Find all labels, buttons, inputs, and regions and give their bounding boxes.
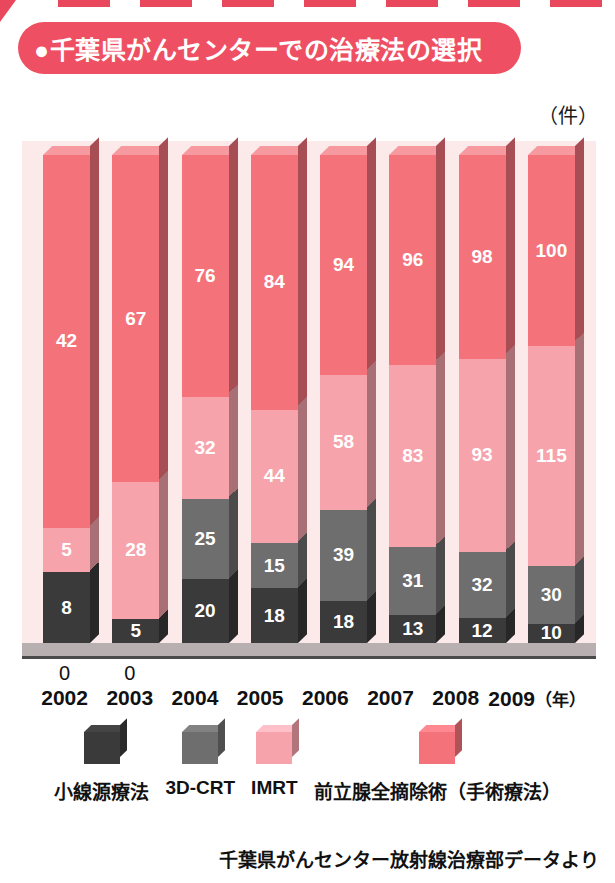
x-axis-labels: 0200202003020040200502006020070200802009…: [22, 661, 596, 721]
stacked-bar[interactable]: 84441518: [251, 155, 298, 643]
bleed-dash: [550, 0, 602, 7]
bar-segment-IMRT: 32: [182, 397, 229, 499]
bar-slot: 1001153010: [517, 141, 586, 657]
bar-segment-3D-CRT: 31: [389, 547, 436, 615]
bar-side-face: [436, 137, 445, 643]
corner-mark: [0, 0, 16, 22]
legend-color-swatch: [256, 732, 292, 764]
bar-segment-IMRT: 83: [389, 365, 436, 547]
bar-segment-IMRT: 93: [459, 359, 506, 552]
bar-segment-小線源療法: 10: [528, 624, 575, 643]
legend-color-swatch: [419, 732, 455, 764]
legend-label: 3D-CRT: [165, 777, 235, 799]
swatch-face: [419, 732, 455, 764]
bar-slot: 84441518: [240, 141, 309, 657]
bleed-dash: [468, 0, 520, 7]
bar-side-face: [575, 137, 584, 643]
bar-segment-小線源療法: 18: [251, 588, 298, 643]
legend-item-surgery[interactable]: 前立腺全摘除術（手術療法）: [308, 725, 567, 804]
x-axis-year-label: 2003: [106, 686, 153, 710]
bar-side-face: [298, 137, 307, 643]
bar-segment-小線源療法: 5: [112, 619, 159, 643]
legend-swatch-wrap: [182, 725, 218, 771]
x-axis-unit-label: （年）: [535, 691, 586, 710]
zero-annotation: 0: [59, 661, 70, 686]
bar-side-face: [90, 137, 99, 643]
swatch-face: [182, 732, 218, 764]
bar-segment-3D-CRT: 15: [251, 543, 298, 588]
x-axis-tick: 02002: [32, 661, 97, 721]
swatch-rgt: [455, 718, 462, 757]
bar-side-face: [229, 137, 238, 643]
legend-label: 小線源療法: [54, 777, 149, 804]
title-banner: ●千葉県がんセンターでの治療法の選択: [18, 22, 521, 74]
stacked-bar[interactable]: 1001153010: [528, 155, 575, 643]
stacked-bar[interactable]: 98933212: [459, 155, 506, 643]
x-axis-tick: 02007: [358, 661, 423, 721]
x-axis-tick: 02003: [97, 661, 162, 721]
bar-group: 4258672857632252084441518945839189683311…: [22, 141, 596, 657]
page-bleed-marks: [0, 0, 615, 8]
legend-swatch-wrap: [419, 725, 455, 771]
page-title-text: 千葉県がんセンターでの治療法の選択: [50, 36, 483, 64]
bar-segment-前立腺全摘除術（手術療法）: 96: [389, 155, 436, 365]
y-axis-unit-label: （件）: [538, 100, 598, 129]
bar-segment-前立腺全摘除術（手術療法）: 84: [251, 155, 298, 410]
bar-segment-IMRT: 5: [43, 528, 90, 572]
bar-side-face: [367, 137, 376, 643]
stacked-bar[interactable]: 67285: [112, 155, 159, 643]
bleed-dash: [304, 0, 356, 7]
bar-segment-前立腺全摘除術（手術療法）: 98: [459, 155, 506, 359]
page-title: ●千葉県がんセンターでの治療法の選択: [18, 30, 482, 66]
swatch-rgt: [120, 718, 127, 757]
bar-slot: 67285: [101, 141, 170, 657]
x-axis-line: [22, 656, 596, 659]
bar-segment-3D-CRT: 39: [320, 510, 367, 601]
bar-segment-3D-CRT: 25: [182, 499, 229, 579]
chart-plot-area: 4258672857632252084441518945839189683311…: [22, 141, 596, 657]
chart-legend: 小線源療法3D-CRTIMRT前立腺全摘除術（手術療法）: [0, 725, 615, 804]
legend-swatch-wrap: [84, 725, 120, 771]
legend-swatch-wrap: [256, 725, 292, 771]
x-axis-year-label: 2008: [432, 686, 479, 710]
bullet-icon: ●: [34, 36, 50, 64]
swatch-face: [256, 732, 292, 764]
bar-side-face: [159, 137, 168, 643]
x-axis-year-label: 2004: [172, 686, 219, 710]
x-axis-tick: 02009（年）: [488, 661, 586, 721]
legend-item-3dcrt[interactable]: 3D-CRT: [159, 725, 241, 799]
bar-segment-小線源療法: 12: [459, 618, 506, 643]
swatch-rgt: [218, 718, 225, 757]
bar-segment-IMRT: 28: [112, 482, 159, 619]
x-axis-year-label: 2009（年）: [488, 686, 586, 711]
bar-slot: 94583918: [309, 141, 378, 657]
x-axis-tick: 02006: [293, 661, 358, 721]
bar-segment-前立腺全摘除術（手術療法）: 67: [112, 155, 159, 482]
legend-label: IMRT: [251, 777, 297, 799]
bar-segment-3D-CRT: 32: [459, 552, 506, 618]
stacked-bar[interactable]: 94583918: [320, 155, 367, 643]
bar-slot: 4258: [32, 141, 101, 657]
bar-slot: 98933212: [448, 141, 517, 657]
stacked-bar[interactable]: 96833113: [389, 155, 436, 643]
legend-item-imrt[interactable]: IMRT: [245, 725, 303, 799]
x-axis-tick: 02008: [423, 661, 488, 721]
bar-segment-小線源療法: 13: [389, 615, 436, 643]
stacked-bar[interactable]: 4258: [43, 155, 90, 643]
bar-segment-小線源療法: 8: [43, 572, 90, 643]
bar-slot: 76322520: [171, 141, 240, 657]
bleed-dash: [386, 0, 438, 7]
stacked-bar[interactable]: 76322520: [182, 155, 229, 643]
bar-segment-小線源療法: 20: [182, 579, 229, 643]
legend-item-brachytherapy[interactable]: 小線源療法: [48, 725, 155, 804]
legend-label: 前立腺全摘除術（手術療法）: [314, 777, 561, 804]
bar-segment-IMRT: 58: [320, 375, 367, 510]
legend-color-swatch: [84, 732, 120, 764]
swatch-face: [84, 732, 120, 764]
bar-segment-前立腺全摘除術（手術療法）: 42: [43, 155, 90, 528]
bar-side-face: [506, 137, 515, 643]
bar-segment-前立腺全摘除術（手術療法）: 76: [182, 155, 229, 397]
bar-segment-前立腺全摘除術（手術療法）: 94: [320, 155, 367, 374]
bar-segment-3D-CRT: 30: [528, 566, 575, 623]
bar-segment-前立腺全摘除術（手術療法）: 100: [528, 155, 575, 346]
